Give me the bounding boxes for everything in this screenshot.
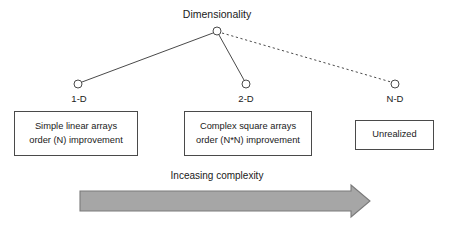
node-label-2d: 2-D bbox=[216, 93, 276, 105]
diagram-canvas: Dimensionality 1-D 2-D N-D Simple linear… bbox=[0, 0, 449, 225]
description-box-2d: Complex square arrays order (N*N) improv… bbox=[184, 111, 312, 156]
description-box-2d-line-2: order (N*N) improvement bbox=[196, 134, 300, 147]
description-box-1d-line-1: Simple linear arrays bbox=[35, 120, 117, 133]
root-node-circle bbox=[213, 27, 221, 35]
edge-root-to-1d bbox=[82, 33, 213, 82]
increasing-complexity-arrow bbox=[80, 185, 370, 217]
node-circle-nd bbox=[391, 80, 399, 88]
node-label-nd: N-D bbox=[365, 93, 425, 105]
node-label-1d: 1-D bbox=[49, 93, 109, 105]
node-circle-2d bbox=[242, 80, 250, 88]
edge-root-to-2d bbox=[219, 35, 244, 80]
node-circle-1d bbox=[74, 80, 82, 88]
description-box-nd: Unrealized bbox=[355, 120, 434, 150]
description-box-1d: Simple linear arrays order (N) improveme… bbox=[14, 111, 138, 156]
page-title: Dimensionality bbox=[137, 8, 297, 21]
description-box-nd-line-1: Unrealized bbox=[372, 128, 416, 141]
description-box-1d-line-2: order (N) improvement bbox=[29, 134, 123, 147]
description-box-2d-line-1: Complex square arrays bbox=[200, 120, 296, 133]
arrow-caption: Inceasing complexity bbox=[117, 170, 317, 183]
edge-root-to-nd bbox=[222, 33, 391, 82]
